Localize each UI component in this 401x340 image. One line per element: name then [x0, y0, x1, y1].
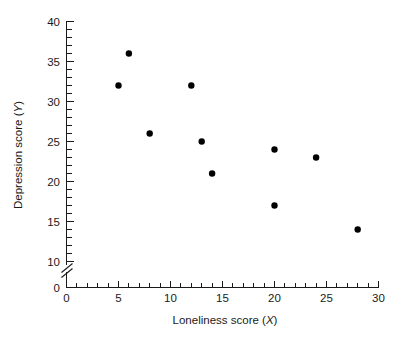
x-axis-title: Loneliness score (X): [173, 314, 278, 326]
x-tick-label-0: 0: [63, 292, 69, 304]
y-axis-title-text: Depression score (: [12, 112, 24, 209]
y-tick-label-35: 35: [47, 56, 60, 68]
x-tick-label-15: 15: [216, 292, 229, 304]
data-point: [199, 138, 205, 144]
data-point: [209, 170, 215, 176]
x-tick-label-20: 20: [268, 292, 281, 304]
data-point: [271, 202, 277, 208]
x-tick-label-25: 25: [320, 292, 333, 304]
x-tick-label-5: 5: [115, 292, 121, 304]
x-axis-title-text: Loneliness score (: [173, 314, 266, 326]
x-axis-ticks: [67, 281, 379, 288]
x-tick-label-30: 30: [372, 292, 385, 304]
y-tick-label-40: 40: [47, 16, 60, 28]
y-tick-label-30: 30: [47, 96, 60, 108]
x-axis-title-close: ): [274, 314, 278, 326]
data-point: [147, 130, 153, 136]
y-tick-label-10: 10: [47, 256, 60, 268]
y-axis-title-close: ): [12, 101, 24, 105]
data-point: [126, 50, 132, 56]
data-point: [313, 154, 319, 160]
data-point: [115, 82, 121, 88]
plot-canvas: 40 35 30 25 20 15 10 0: [0, 0, 401, 340]
scatter-plot-figure: 40 35 30 25 20 15 10 0: [0, 0, 401, 340]
scatter-points-group: [115, 50, 361, 232]
y-axis-ticks: [67, 22, 74, 262]
y-tick-label-20: 20: [47, 176, 60, 188]
y-tick-label-15: 15: [47, 216, 60, 228]
data-point: [271, 146, 277, 152]
y-axis-title: Depression score (Y): [12, 101, 24, 209]
y-tick-label-25: 25: [47, 136, 60, 148]
y-tick-label-0: 0: [54, 282, 60, 294]
x-tick-label-10: 10: [164, 292, 177, 304]
data-point: [188, 82, 194, 88]
data-point: [355, 226, 361, 232]
